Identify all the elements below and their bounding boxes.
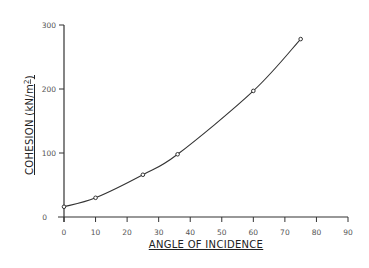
y-tick-label: 200 [42, 85, 57, 94]
x-tick-label: 50 [217, 228, 227, 237]
y-axis-title: COHESION (kN/m2) [23, 75, 35, 175]
data-point [141, 173, 145, 177]
x-tick-label: 0 [62, 228, 67, 237]
x-tick-label: 90 [343, 228, 353, 237]
data-point [252, 89, 256, 93]
data-point [62, 205, 66, 209]
data-point [94, 196, 98, 200]
x-tick-label: 70 [280, 228, 290, 237]
y-tick-label: 300 [42, 21, 57, 30]
data-markers [62, 37, 302, 208]
data-point [299, 37, 303, 41]
data-point [176, 152, 180, 156]
x-axis-ticks: 0102030405060708090 [62, 217, 353, 237]
x-tick-label: 30 [154, 228, 164, 237]
x-tick-label: 80 [312, 228, 322, 237]
x-tick-label: 40 [185, 228, 195, 237]
data-line [64, 39, 301, 207]
axes [58, 25, 348, 222]
x-tick-label: 10 [91, 228, 101, 237]
y-axis-ticks: 0100200300 [42, 21, 64, 222]
x-tick-label: 20 [122, 228, 132, 237]
y-tick-label: 100 [42, 149, 57, 158]
x-axis-title: ANGLE OF INCIDENCE [149, 239, 264, 250]
x-tick-label: 60 [249, 228, 259, 237]
chart: 0100200300 0102030405060708090 ANGLE OF … [0, 0, 369, 268]
y-tick-label: 0 [42, 213, 47, 222]
